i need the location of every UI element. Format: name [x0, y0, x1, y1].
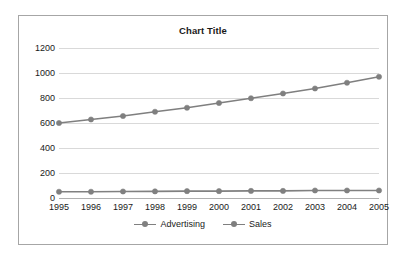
plot-area	[59, 48, 379, 198]
legend-item[interactable]: Sales	[223, 219, 272, 229]
y-axis-tick-label: 600	[21, 118, 55, 128]
data-point-marker	[248, 188, 253, 193]
data-point-marker	[280, 91, 285, 96]
data-point-marker	[376, 74, 381, 79]
data-point-marker	[120, 189, 125, 194]
y-axis-tick-label: 1000	[21, 68, 55, 78]
y-axis-tick-label: 1200	[21, 43, 55, 53]
legend-marker-icon	[223, 220, 245, 229]
data-point-marker	[88, 189, 93, 194]
y-axis-tick-label: 800	[21, 93, 55, 103]
data-point-marker	[56, 189, 61, 194]
chart-container: Chart Title 020040060080010001200 199519…	[18, 15, 388, 245]
data-point-marker	[312, 86, 317, 91]
y-axis-tick-label: 200	[21, 168, 55, 178]
x-axis-tick-label: 2003	[305, 202, 325, 212]
data-point-marker	[56, 120, 61, 125]
legend-item[interactable]: Advertising	[134, 219, 205, 229]
series-line	[59, 77, 379, 123]
x-axis-tick-label: 2002	[273, 202, 293, 212]
series-layer	[59, 48, 379, 198]
y-axis-tick-label: 400	[21, 143, 55, 153]
chart-legend: AdvertisingSales	[19, 219, 387, 229]
chart-title: Chart Title	[19, 25, 387, 36]
data-point-marker	[248, 96, 253, 101]
legend-label: Sales	[249, 219, 272, 229]
data-point-marker	[152, 109, 157, 114]
data-point-marker	[344, 188, 349, 193]
legend-label: Advertising	[160, 219, 205, 229]
data-point-marker	[344, 80, 349, 85]
x-axis-tick-label: 1999	[177, 202, 197, 212]
data-point-marker	[216, 100, 221, 105]
data-point-marker	[152, 189, 157, 194]
x-axis-tick-label: 1998	[145, 202, 165, 212]
legend-marker-icon	[134, 220, 156, 229]
x-axis-tick-label: 2001	[241, 202, 261, 212]
x-axis-tick-label: 2005	[369, 202, 389, 212]
x-axis-tick-label: 1997	[113, 202, 133, 212]
data-point-marker	[184, 105, 189, 110]
data-point-marker	[376, 188, 381, 193]
y-axis-tick-labels: 020040060080010001200	[19, 48, 55, 198]
x-axis-line	[59, 198, 379, 199]
data-point-marker	[88, 117, 93, 122]
data-point-marker	[312, 188, 317, 193]
x-axis-tick-label: 1995	[49, 202, 69, 212]
x-axis-tick-label: 2000	[209, 202, 229, 212]
data-point-marker	[120, 113, 125, 118]
data-point-marker	[280, 188, 285, 193]
x-axis-tick-labels: 1995199619971998199920002001200220032004…	[59, 202, 379, 216]
data-point-marker	[184, 189, 189, 194]
x-axis-tick-label: 2004	[337, 202, 357, 212]
data-point-marker	[216, 189, 221, 194]
x-axis-tick-label: 1996	[81, 202, 101, 212]
